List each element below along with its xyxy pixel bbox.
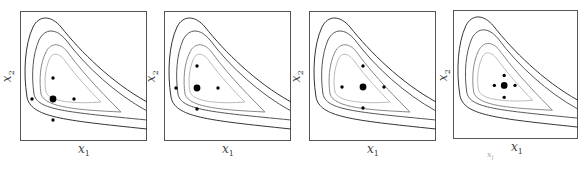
sample-point	[501, 82, 508, 89]
sample-point	[51, 76, 54, 79]
plot-area	[309, 11, 436, 141]
x-axis-label: x1	[367, 142, 379, 158]
panel-3: x2 x1	[290, 0, 440, 169]
x-axis-label: x1	[511, 140, 523, 156]
contour-level-2	[322, 31, 436, 120]
sample-point	[174, 86, 177, 89]
sample-point	[340, 85, 343, 88]
contour-level-2	[33, 31, 147, 120]
sample-point	[493, 84, 496, 87]
y-axis-label: x2	[436, 69, 452, 81]
contour-plot	[21, 12, 147, 141]
sample-point	[216, 86, 219, 89]
sample-point	[360, 84, 367, 91]
panel-2: x2 x1	[145, 0, 295, 169]
panel-1: x2 x1	[0, 0, 150, 169]
plot-area	[453, 10, 578, 139]
sample-point	[361, 64, 364, 67]
contour-plot	[454, 11, 578, 139]
x-axis-label: x1	[78, 142, 90, 158]
contour-level-2	[465, 30, 578, 118]
y-axis-label: x2	[289, 70, 305, 82]
sample-point	[513, 84, 516, 87]
sample-point	[382, 85, 385, 88]
sample-point	[361, 106, 364, 109]
x-axis-label: x1	[222, 142, 234, 158]
contour-plot	[165, 12, 291, 141]
faint-label-artifact: xi	[487, 150, 494, 162]
contour-plot	[310, 12, 436, 141]
sample-point	[30, 97, 33, 100]
contour-level-2	[177, 31, 291, 120]
plot-area	[164, 11, 291, 141]
plot-area	[20, 11, 147, 141]
sample-point	[50, 96, 57, 103]
sample-point	[194, 85, 201, 92]
sample-point	[195, 107, 198, 110]
y-axis-label: x2	[144, 70, 160, 82]
sample-point	[503, 74, 506, 77]
sample-point	[195, 64, 198, 67]
sample-point	[72, 97, 75, 100]
sample-point	[51, 118, 54, 121]
y-axis-label: x2	[0, 70, 16, 82]
sample-point	[503, 96, 506, 99]
panel-4: x2 x1 xi	[438, 0, 588, 169]
